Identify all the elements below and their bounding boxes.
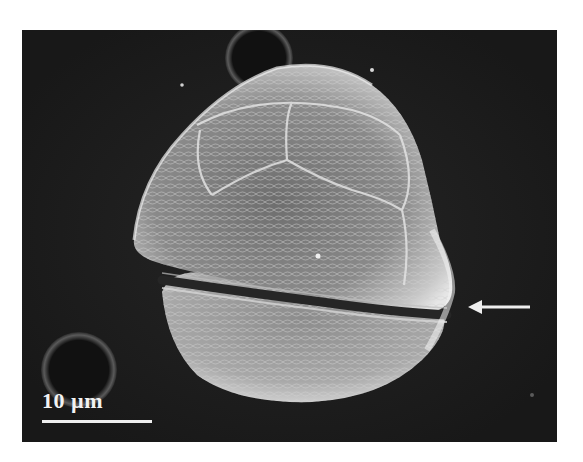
sem-micrograph: 10 µm	[22, 30, 557, 442]
scale-bar-label: 10 µm	[42, 390, 103, 412]
scale-bar	[42, 420, 152, 423]
specimen-drawing	[22, 30, 557, 442]
